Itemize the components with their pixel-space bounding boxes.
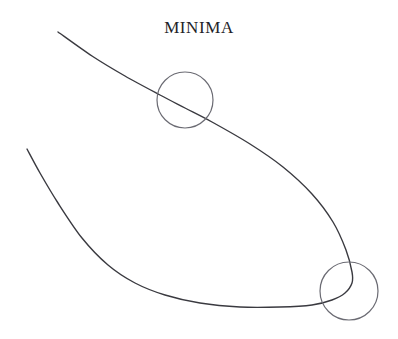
figure-canvas: MINIMA: [0, 0, 398, 339]
page-title: MINIMA: [0, 18, 398, 37]
figure-background: [0, 0, 398, 339]
minima-diagram-svg: [0, 0, 398, 339]
